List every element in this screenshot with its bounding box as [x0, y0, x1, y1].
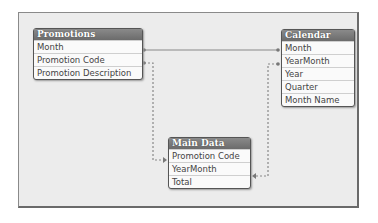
field-yearmonth[interactable]: YearMonth — [282, 54, 354, 67]
table-title: Promotions — [34, 29, 142, 40]
table-main-data[interactable]: Main Data Promotion Code YearMonth Total — [168, 137, 251, 189]
field-quarter[interactable]: Quarter — [282, 80, 354, 93]
field-year[interactable]: Year — [282, 67, 354, 80]
field-promotion-code[interactable]: Promotion Code — [34, 53, 142, 66]
table-title: Main Data — [169, 138, 250, 149]
table-title: Calendar — [282, 30, 354, 41]
field-month[interactable]: Month — [282, 41, 354, 54]
field-promotion-description[interactable]: Promotion Description — [34, 66, 142, 79]
field-month-name[interactable]: Month Name — [282, 93, 354, 106]
field-yearmonth[interactable]: YearMonth — [169, 162, 250, 175]
field-promotion-code[interactable]: Promotion Code — [169, 149, 250, 162]
table-calendar[interactable]: Calendar Month YearMonth Year Quarter Mo… — [281, 29, 355, 107]
table-promotions[interactable]: Promotions Month Promotion Code Promotio… — [33, 28, 143, 80]
field-month[interactable]: Month — [34, 40, 142, 53]
field-total[interactable]: Total — [169, 175, 250, 188]
link-promotion-code — [144, 63, 163, 160]
link-yearmonth — [256, 64, 278, 176]
